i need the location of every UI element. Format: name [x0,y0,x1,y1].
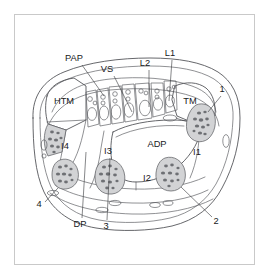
label-htm: HTM [54,96,74,106]
label-i2: I2 [143,173,151,183]
label-vs: VS [101,64,113,74]
label-i3: I3 [104,146,112,156]
vessel-small-5b [144,91,148,95]
label-i4: I4 [61,141,69,151]
label-pap: PAP [65,53,83,63]
tendon-oval-4 [124,103,134,117]
tendon-sheath-6 [151,83,165,117]
label-3: 3 [103,221,108,231]
tendon-compartment-6 [151,83,165,117]
tendon-oval-1 [87,108,96,121]
vessel-bottom-center [109,200,121,205]
vessel-small-4a [126,90,131,95]
vessel-small-2b [101,101,105,105]
label-adp: ADP [147,139,166,149]
tendon-sheath-1 [86,90,99,127]
tendon-compartment-4 [122,84,137,122]
vessel-small-1a [88,97,93,102]
label-l1: L1 [165,48,175,58]
label-i1: I1 [193,147,201,157]
vessel-small-1b [93,101,97,105]
tendon-oval-2 [99,106,108,120]
vessel-small-3a [113,92,118,97]
vessel-small-3b [113,99,117,103]
tendon-compartment-7-l1 [164,81,177,113]
tendon-oval-7-l1 [166,95,175,107]
label-2: 2 [213,216,218,226]
tendon-oval-3 [111,105,121,119]
label-1: 1 [219,84,224,94]
vessel-small-7b [172,85,176,89]
muscle-belly-1-shape [186,104,215,142]
vessel-small-5a [139,89,143,93]
cross-section-diagram: PAP VS L2 L1 HTM TM I4 I3 ADP I1 I2 DP 3… [0,0,270,280]
adp-inner-line [116,125,184,137]
deep-palmar-band [55,185,208,203]
label-l2: L2 [140,58,150,68]
vessel-small-2a [101,95,106,100]
muscle-belly-hypothenar-lower [52,159,78,189]
tendon-compartment-1 [86,90,99,127]
subcutaneous-contour [40,66,233,222]
hypothenar-inner-line [47,120,86,122]
label-4: 4 [36,199,41,209]
tendon-oval-6 [153,98,162,110]
vessel-small-6b [155,95,159,99]
muscle-belly-i2 [156,157,185,191]
label-tm: TM [183,96,196,106]
label-dp: DP [74,219,87,229]
muscle-belly-hypothenar-upper [44,124,66,156]
muscle-belly-thenar [186,104,215,142]
vessel-bottom-right-a [150,203,161,208]
tendon-compartment-2 [97,88,111,126]
vessel-bottom-left [96,207,108,212]
vessel-right-lateral [223,135,229,148]
